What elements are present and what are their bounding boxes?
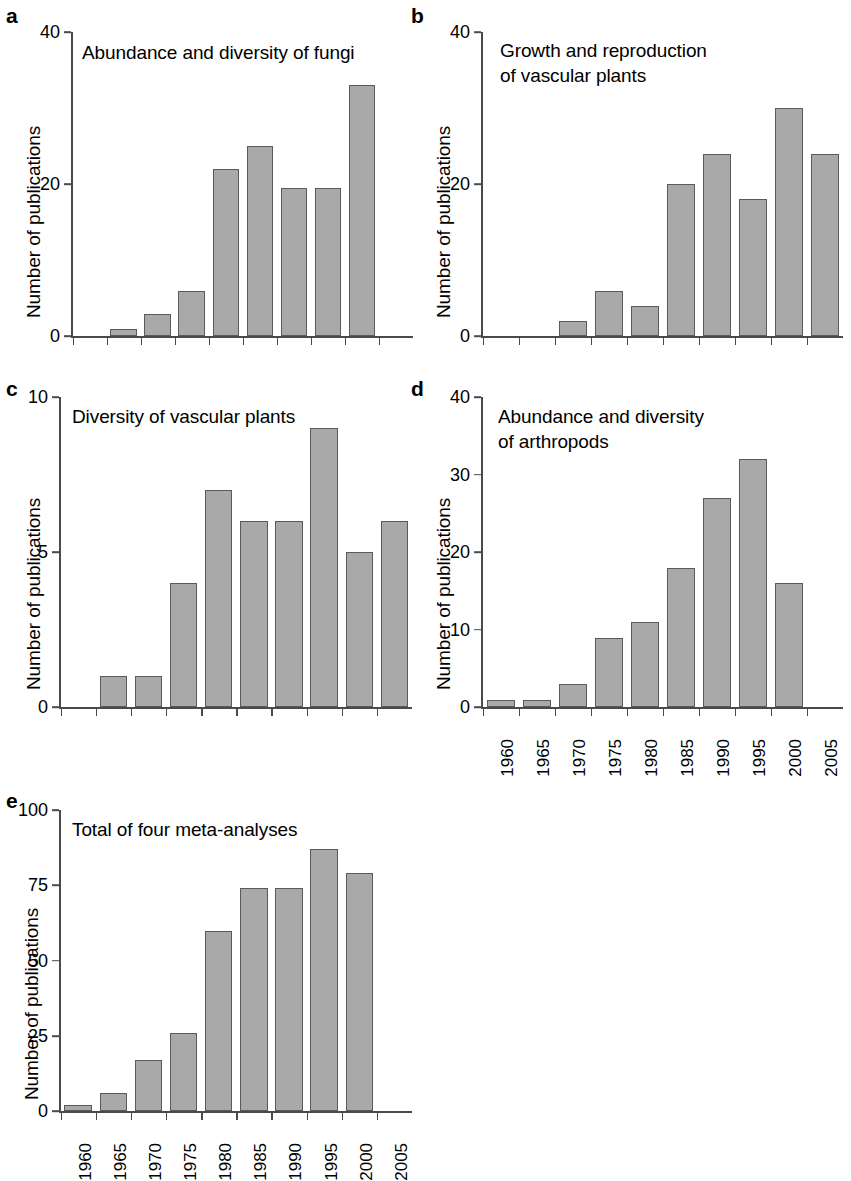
y-tick-label-d-0: 0	[460, 698, 470, 716]
x-tick-a-1980	[209, 338, 210, 345]
x-tick-d-1990	[699, 709, 700, 716]
x-tick-e-1990	[271, 1113, 272, 1120]
y-tick-label-b-0: 0	[460, 327, 470, 345]
panel-title-c: Diversity of vascular plants	[72, 404, 402, 429]
y-axis-line-a	[71, 32, 73, 338]
x-tick-label-e-1995: 1995	[323, 1143, 340, 1181]
x-tick-b-2000	[771, 338, 772, 345]
x-tick-label-e-1965: 1965	[112, 1143, 129, 1181]
y-axis-label-b: Number of publications	[434, 126, 453, 318]
x-tick-d-1960	[483, 709, 484, 716]
bar-e-1975	[170, 1033, 197, 1111]
y-tick-d-20	[474, 551, 481, 553]
x-tick-b-1975	[591, 338, 592, 345]
bars-container-e	[61, 810, 412, 1111]
y-tick-a-40	[64, 31, 71, 33]
x-axis-line-e	[59, 1111, 412, 1113]
x-tick-c-2000	[342, 709, 343, 716]
x-tick-a-1990	[277, 338, 278, 345]
x-tick-label-d-1990: 1990	[715, 739, 732, 777]
panel-letter-b: b	[411, 5, 424, 26]
bar-a-2000	[349, 85, 376, 336]
x-tick-label-e-1970: 1970	[147, 1143, 164, 1181]
bar-a-1990	[281, 188, 308, 336]
bars-container-d	[483, 397, 843, 707]
bar-slot-e-1970	[131, 810, 166, 1111]
y-tick-label-d-40: 40	[450, 388, 470, 406]
bar-slot-c-1995	[307, 397, 342, 707]
y-axis-label-c: Number of publications	[24, 498, 43, 690]
bar-e-1990	[275, 888, 302, 1111]
bar-d-1960	[487, 700, 515, 708]
bar-b-1980	[631, 306, 659, 336]
bar-slot-c-2005	[377, 397, 412, 707]
x-tick-b-1970	[555, 338, 556, 345]
y-tick-c-10	[52, 396, 59, 398]
y-tick-d-40	[474, 396, 481, 398]
y-axis-line-e	[59, 810, 61, 1113]
x-tick-a-2000	[345, 338, 346, 345]
x-tick-label-e-1975: 1975	[182, 1143, 199, 1181]
bar-slot-a-1980	[209, 32, 243, 336]
bar-slot-d-2005	[807, 397, 843, 707]
y-tick-label-a-40: 40	[40, 23, 60, 41]
bar-slot-b-1970	[555, 32, 591, 336]
bar-e-1970	[135, 1060, 162, 1111]
x-tick-c-1990	[271, 709, 272, 716]
plot-area-a: 02040	[71, 32, 413, 338]
x-tick-e-1960	[61, 1113, 62, 1120]
y-tick-label-e-50: 50	[28, 952, 48, 970]
bar-slot-c-1990	[271, 397, 306, 707]
bar-slot-e-2000	[342, 810, 377, 1111]
bar-c-1970	[135, 676, 162, 707]
bar-d-1990	[703, 498, 731, 708]
x-tick-d-1995	[735, 709, 736, 716]
plot-area-e: 0255075100196019651970197519801985199019…	[59, 810, 412, 1113]
x-tick-e-1975	[166, 1113, 167, 1120]
y-tick-e-75	[52, 885, 59, 887]
bar-c-2005	[381, 521, 408, 707]
bar-slot-b-1995	[735, 32, 771, 336]
bar-slot-d-1975	[591, 397, 627, 707]
bar-b-1985	[667, 184, 695, 336]
x-tick-d-1975	[591, 709, 592, 716]
bar-slot-b-1960	[483, 32, 519, 336]
panel-letter-c: c	[6, 378, 18, 399]
x-tick-label-e-1990: 1990	[288, 1143, 305, 1181]
x-tick-c-1970	[131, 709, 132, 716]
y-tick-label-c-0: 0	[38, 698, 48, 716]
bar-slot-a-1990	[277, 32, 311, 336]
y-tick-e-100	[52, 809, 59, 811]
bar-slot-a-1985	[243, 32, 277, 336]
bar-c-1980	[205, 490, 232, 707]
y-tick-d-0	[474, 707, 481, 709]
x-tick-label-d-1995: 1995	[751, 739, 768, 777]
bar-e-1985	[240, 888, 267, 1111]
bar-c-1965	[100, 676, 127, 707]
bar-slot-e-2005	[377, 810, 412, 1111]
y-tick-e-25	[52, 1035, 59, 1037]
bar-slot-d-2000	[771, 397, 807, 707]
x-tick-label-d-1985: 1985	[679, 739, 696, 777]
x-tick-d-2005	[807, 709, 808, 716]
x-tick-b-1980	[627, 338, 628, 345]
bar-b-1970	[559, 321, 587, 336]
x-tick-label-e-1980: 1980	[218, 1143, 235, 1181]
x-tick-label-e-2000: 2000	[358, 1143, 375, 1181]
bar-slot-e-1990	[271, 810, 306, 1111]
y-axis-line-b	[481, 32, 483, 338]
bar-slot-e-1980	[201, 810, 236, 1111]
y-tick-label-c-5: 5	[38, 543, 48, 561]
bar-e-1960	[64, 1105, 91, 1111]
y-axis-label-e: Number of publications	[22, 908, 41, 1100]
x-tick-e-1985	[236, 1113, 237, 1120]
y-tick-label-a-20: 20	[40, 175, 60, 193]
bar-slot-b-2005	[807, 32, 843, 336]
x-tick-a-1995	[311, 338, 312, 345]
bar-b-1995	[739, 199, 767, 336]
y-tick-label-e-0: 0	[38, 1102, 48, 1120]
